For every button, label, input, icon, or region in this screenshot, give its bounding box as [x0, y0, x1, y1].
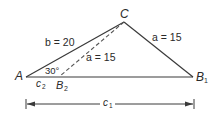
segment-c1-label: c: [103, 97, 108, 108]
segment-c1-subscript: 1: [109, 102, 113, 109]
vertex-B1-subscript: 1: [204, 77, 208, 84]
dimension-c1-arrow-left-icon: [27, 102, 35, 107]
ambiguous-triangle-diagram: A C B 1 B 2 b = 20 a = 15 a = 15 30° c 2…: [0, 0, 218, 125]
vertex-A-label: A: [14, 69, 23, 83]
vertex-B1-label: B: [196, 70, 204, 84]
segment-c2-label: c: [36, 78, 41, 89]
triangle-svg: A C B 1 B 2 b = 20 a = 15 a = 15 30° c 2…: [0, 0, 218, 125]
segment-c2-subscript: 2: [42, 83, 46, 90]
side-a-CB2-dashed: [60, 22, 124, 76]
angle-A-label: 30°: [45, 65, 60, 76]
dimension-c1-arrow-right-icon: [185, 102, 193, 107]
side-b-label: b = 20: [45, 36, 75, 48]
side-b-AC: [26, 22, 124, 77]
side-a-outer-label: a = 15: [152, 31, 182, 43]
vertex-B2-subscript: 2: [64, 85, 68, 92]
side-a-inner-label: a = 15: [86, 51, 116, 63]
vertex-C-label: C: [120, 7, 129, 21]
vertex-B2-label: B: [56, 79, 63, 91]
